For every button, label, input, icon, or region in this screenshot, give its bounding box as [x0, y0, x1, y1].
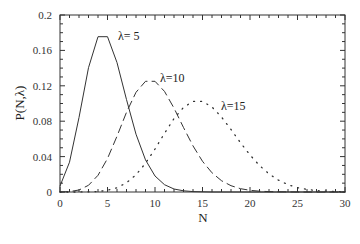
x-axis-title: N: [198, 210, 208, 225]
y-tick-label: 0.04: [33, 151, 53, 163]
x-tick-label: 0: [57, 197, 63, 209]
y-tick-label: 0.2: [38, 9, 52, 21]
x-tick-label: 15: [197, 197, 209, 209]
y-tick-label: 0.16: [33, 44, 53, 56]
plot-frame: [60, 15, 345, 192]
y-tick-label: 0.12: [33, 80, 52, 92]
y-axis-tick-labels: 00.040.080.120.160.2: [33, 9, 53, 198]
y-tick-label: 0.08: [33, 115, 53, 127]
series-line-lambda-15: [60, 101, 345, 192]
x-tick-label: 10: [150, 197, 162, 209]
x-tick-label: 25: [292, 197, 304, 209]
axis-ticks: [60, 15, 345, 192]
x-tick-label: 5: [105, 197, 111, 209]
x-tick-label: 20: [245, 197, 257, 209]
x-axis-tick-labels: 051015202530: [57, 197, 351, 209]
lambda-5-annotation: λ= 5: [118, 29, 140, 43]
y-tick-label: 0: [47, 186, 53, 198]
lambda-10-annotation: λ=10: [160, 71, 185, 85]
x-tick-label: 30: [340, 197, 352, 209]
data-series: [60, 37, 345, 192]
series-line-lambda-5: [60, 37, 345, 192]
lambda-15-annotation: λ=15: [221, 99, 246, 113]
series-line-lambda-10: [60, 81, 345, 192]
y-axis-title: P(N,λ): [12, 86, 27, 121]
poisson-distribution-chart: 00.040.080.120.160.2 051015202530 N P(N,…: [0, 0, 360, 244]
